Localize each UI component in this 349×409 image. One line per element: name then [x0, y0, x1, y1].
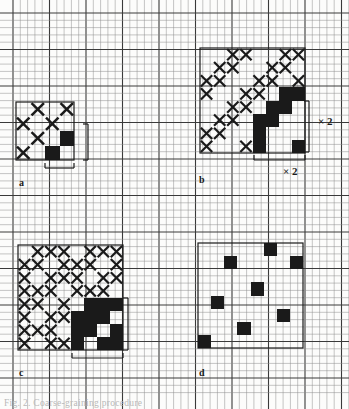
cell-black — [253, 114, 266, 127]
cell-black — [253, 140, 266, 153]
cell-black — [84, 324, 97, 337]
cell-black — [237, 322, 250, 335]
figure-panel-container: abcd× 2× 2 — [0, 0, 349, 409]
cell-black — [71, 324, 84, 337]
cell-black — [97, 311, 110, 324]
cell-black — [84, 311, 97, 324]
cell-black — [45, 146, 60, 161]
cell-black — [84, 298, 97, 311]
cell-black — [97, 337, 110, 350]
cell-black — [110, 324, 123, 337]
scale-label-b-horizontal: × 2 — [283, 165, 298, 177]
cell-black — [211, 296, 224, 309]
cell-black — [198, 335, 211, 348]
cell-black — [253, 127, 266, 140]
cell-black — [110, 337, 123, 350]
figure-caption: Fig. 2. Coarse-graining procedure — [4, 398, 344, 409]
cell-black — [110, 298, 123, 311]
panel-label-d: d — [199, 367, 205, 378]
cell-black — [279, 101, 292, 114]
cell-black — [277, 309, 290, 322]
cell-black — [266, 101, 279, 114]
cell-black — [279, 87, 292, 100]
cell-black — [224, 256, 237, 269]
figure-caption-text: Fig. 2. Coarse-graining procedure — [4, 398, 142, 408]
cell-black — [71, 337, 84, 350]
panel-label-c: c — [19, 367, 24, 378]
cell-black — [292, 87, 305, 100]
panel-label-b: b — [199, 174, 205, 185]
cell-black — [71, 311, 84, 324]
panel-label-a: a — [19, 177, 24, 188]
cell-black — [97, 298, 110, 311]
cell-black — [290, 256, 303, 269]
grid-figure-svg: abcd× 2× 2 — [0, 0, 349, 409]
cell-black — [292, 140, 305, 153]
cell-black — [266, 114, 279, 127]
cell-black — [264, 243, 277, 256]
cell-black — [60, 131, 75, 146]
cell-black — [251, 282, 264, 295]
scale-label-b-vertical: × 2 — [318, 115, 333, 127]
